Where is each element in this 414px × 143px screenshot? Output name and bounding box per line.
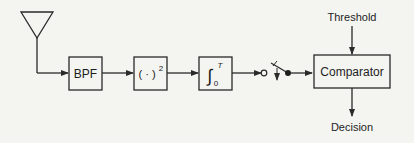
- integral-upper-limit: T: [218, 61, 224, 70]
- squarer-label: ( · ): [138, 68, 155, 80]
- sampling-switch-icon: [261, 61, 291, 80]
- bpf-block: BPF: [69, 57, 102, 90]
- block-diagram: BPF ( · ) 2 ∫ T 0 Threshold Comparator D…: [0, 0, 414, 143]
- integral-lower-limit: 0: [214, 79, 219, 88]
- squarer-exponent: 2: [159, 64, 164, 73]
- antenna-icon: [21, 12, 53, 73]
- comparator-block: Comparator: [314, 55, 390, 88]
- integral-sign: ∫: [206, 66, 214, 86]
- threshold-label: Threshold: [328, 11, 377, 23]
- squarer-block: ( · ) 2: [134, 57, 167, 90]
- bpf-label: BPF: [74, 67, 97, 81]
- decision-label: Decision: [331, 121, 373, 133]
- comparator-label: Comparator: [320, 65, 383, 79]
- integrator-block: ∫ T 0: [199, 57, 232, 90]
